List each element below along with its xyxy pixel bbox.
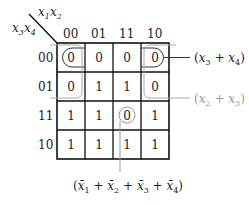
col-header-11: 11 — [119, 28, 134, 40]
col-header-00: 00 — [63, 28, 78, 40]
cell-r0-c2: 0 — [113, 43, 141, 72]
cell-r2-c3: 1 — [141, 101, 169, 130]
group-label-x2-x3: (x2 + x3) — [194, 93, 245, 110]
col-header-01: 01 — [91, 28, 106, 40]
cell-r1-c0: 0 — [57, 72, 85, 101]
cell-r2-c2: 0 — [113, 101, 141, 130]
cell-r1-c1: 1 — [85, 72, 113, 101]
cell-r3-c0: 1 — [57, 130, 85, 159]
cell-r0-c3: 0 — [141, 43, 169, 72]
cell-r0-c0: 0 — [57, 43, 85, 72]
row-header-11: 11 — [38, 110, 53, 122]
cell-r2-c0: 1 — [57, 101, 85, 130]
row-header-01: 01 — [38, 81, 53, 93]
row-vars-label: x3x4 — [12, 22, 36, 39]
cell-r0-c1: 0 — [85, 43, 113, 72]
cell-r3-c1: 1 — [85, 130, 113, 159]
col-vars-label: x1x2 — [38, 6, 62, 23]
cell-r3-c3: 1 — [141, 130, 169, 159]
cell-r1-c2: 1 — [113, 72, 141, 101]
group-label-single: (x̄1 + x̄2 + x̄3 + x̄4) — [73, 180, 183, 197]
cell-r3-c2: 1 — [113, 130, 141, 159]
cell-r2-c1: 1 — [85, 101, 113, 130]
row-header-10: 10 — [38, 139, 53, 151]
row-header-00: 00 — [38, 52, 53, 64]
group-label-x3-x4: (x3 + x4) — [194, 52, 245, 69]
col-header-10: 10 — [147, 28, 162, 40]
cell-r1-c3: 0 — [141, 72, 169, 101]
